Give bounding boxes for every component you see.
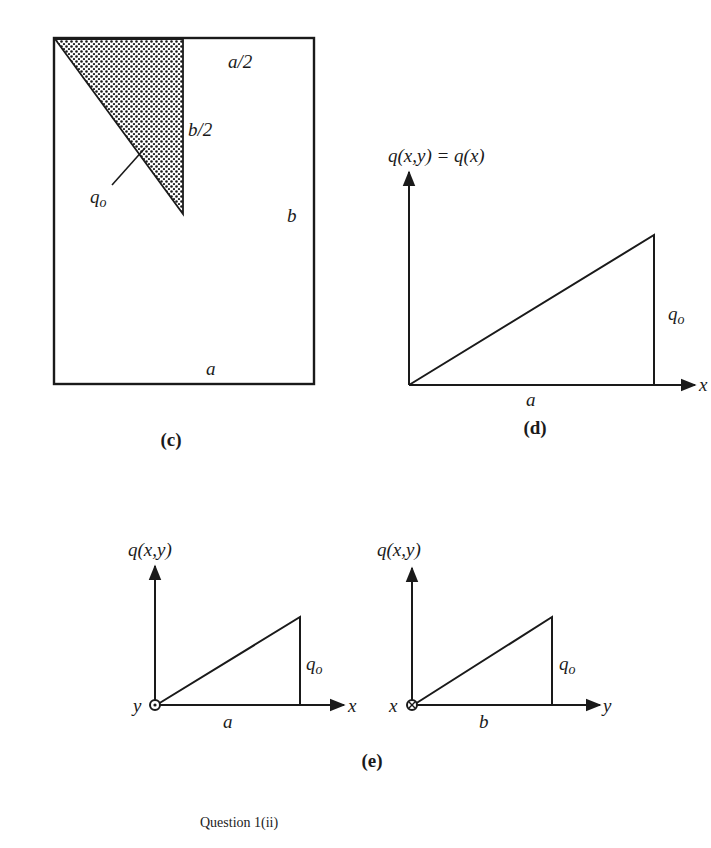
base-label: a — [526, 389, 536, 410]
load-triangle — [409, 235, 654, 385]
question-label: Question 1(ii) — [200, 815, 278, 831]
diagram-canvas: a/2 b/2 qo b a (c) q(x,y) = q(x) x a qo … — [0, 0, 711, 848]
x-axis-label: x — [347, 695, 357, 716]
x-axis-label: y — [601, 695, 612, 716]
base-label: a — [223, 711, 233, 732]
caption-d: (d) — [523, 417, 546, 439]
label-q-o: qo — [90, 186, 107, 210]
load-triangle — [415, 617, 552, 705]
y-axis-label: q(x,y) — [128, 539, 172, 561]
caption-e: (e) — [361, 750, 382, 772]
load-leader-line — [112, 148, 145, 185]
base-label: b — [479, 711, 489, 732]
out-of-plane-dot-icon — [150, 700, 160, 710]
figure-e-right-graph: q(x,y) y x b qo — [377, 539, 612, 732]
label-a: a — [206, 358, 216, 379]
figure-e-left-graph: q(x,y) x y a qo — [128, 539, 357, 732]
figure-c-plate: a/2 b/2 qo b a (c) — [54, 38, 314, 451]
height-label: qo — [668, 303, 685, 327]
out-of-plane-label: y — [131, 695, 142, 716]
caption-c: (c) — [160, 429, 181, 451]
load-triangle — [158, 617, 300, 705]
height-label: qo — [306, 653, 323, 677]
height-label: qo — [559, 653, 576, 677]
y-axis-label: q(x,y) = q(x) — [388, 145, 485, 167]
label-b: b — [287, 205, 297, 226]
out-of-plane-cross-icon — [407, 700, 417, 710]
x-axis-label: x — [698, 374, 708, 395]
figure-d-load-graph: q(x,y) = q(x) x a qo (d) — [388, 145, 708, 439]
y-axis-label: q(x,y) — [377, 539, 421, 561]
label-a-half: a/2 — [228, 51, 253, 72]
label-b-half: b/2 — [188, 119, 213, 140]
shaded-load-triangle — [55, 39, 183, 214]
out-of-plane-label: x — [388, 695, 398, 716]
